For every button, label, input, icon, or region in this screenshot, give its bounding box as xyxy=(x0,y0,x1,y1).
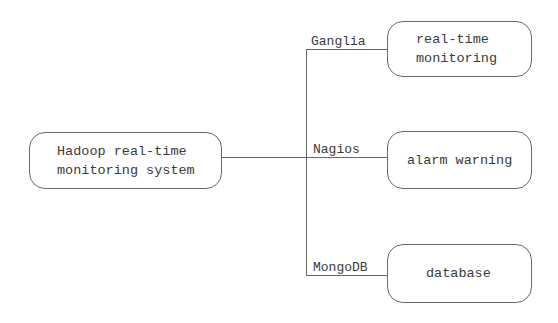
connector-root-to-trunk xyxy=(222,157,306,158)
node-real-time-monitoring-label: real-time monitoring xyxy=(416,30,497,68)
node-alarm-warning-label: alarm warning xyxy=(407,151,512,170)
root-node-label: Hadoop real-time monitoring system xyxy=(57,142,195,180)
root-node-hadoop-monitoring-system: Hadoop real-time monitoring system xyxy=(29,132,222,189)
node-database: database xyxy=(387,244,532,303)
node-alarm-warning: alarm warning xyxy=(387,131,532,189)
edge-label-nagios: Nagios xyxy=(313,143,360,157)
node-real-time-monitoring: real-time monitoring xyxy=(387,21,532,77)
connector-nagios xyxy=(306,157,387,158)
connector-trunk xyxy=(306,49,307,276)
connector-mongodb xyxy=(306,275,387,276)
node-database-label: database xyxy=(426,264,491,283)
edge-label-ganglia: Ganglia xyxy=(311,35,366,49)
edge-label-mongodb: MongoDB xyxy=(313,261,368,275)
connector-ganglia xyxy=(306,49,387,50)
